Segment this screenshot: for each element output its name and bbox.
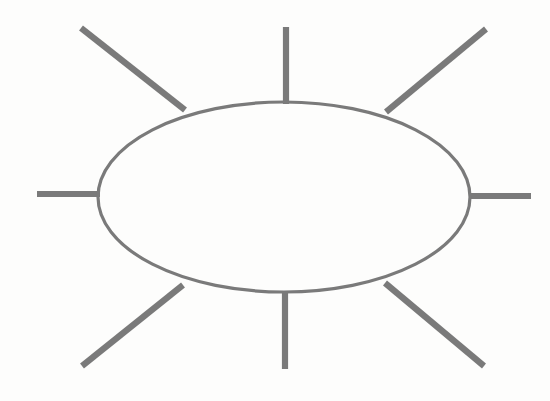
canvas-background (0, 0, 550, 401)
drawing-canvas (0, 0, 550, 401)
sun-figure (0, 0, 550, 401)
